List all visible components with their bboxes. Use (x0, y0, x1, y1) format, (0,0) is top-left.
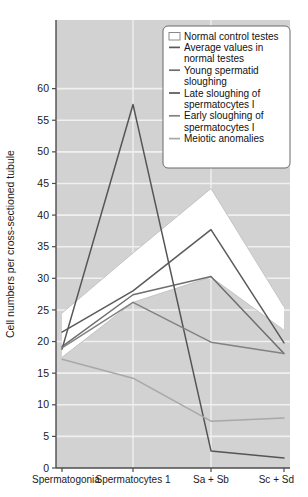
x-tick-label: Sa + Sb (193, 474, 229, 485)
x-tick-label: Spermatocytes 1 (95, 474, 170, 485)
legend-label: normal testes (184, 53, 244, 64)
y-tick-label: 0 (43, 462, 49, 474)
legend-swatch-box (169, 33, 180, 41)
legend-label: Young spermatid (184, 65, 259, 76)
y-tick-label: 5 (43, 430, 49, 442)
legend-label: Early sloughing of (184, 110, 264, 121)
y-tick-label: 10 (37, 398, 49, 410)
legend-label: Late sloughing of (184, 88, 260, 99)
y-tick-label: 25 (37, 304, 49, 316)
legend-label: sloughing (184, 76, 227, 87)
y-tick-label: 50 (37, 145, 49, 157)
legend-label: Normal control testes (184, 31, 278, 42)
y-tick-label: 40 (37, 209, 49, 221)
line-chart: 051015202530354045505560 SpermatogoniaSp… (0, 0, 308, 497)
legend-label: spermatocytes I (184, 122, 255, 133)
y-tick-label: 15 (37, 367, 49, 379)
legend-label: Meiotic anomalies (184, 133, 264, 144)
y-axis-title: Cell numbers per cross-sectioned tubule (4, 150, 16, 338)
y-tick-label: 20 (37, 335, 49, 347)
chart-legend: Normal control testesAverage values inno… (163, 26, 290, 168)
x-tick-label: Spermatogonia (32, 474, 100, 485)
y-tick-label: 60 (37, 82, 49, 94)
y-tick-label: 55 (37, 114, 49, 126)
y-axis-ticks: 051015202530354045505560 (37, 82, 56, 473)
chart-container: 051015202530354045505560 SpermatogoniaSp… (0, 0, 308, 497)
x-tick-label: Sc + Sd (259, 474, 294, 485)
legend-label: Average values in (184, 42, 263, 53)
y-tick-label: 30 (37, 272, 49, 284)
y-tick-label: 45 (37, 177, 49, 189)
y-tick-label: 35 (37, 240, 49, 252)
legend-label: spermatocytes I (184, 99, 255, 110)
x-axis-ticks: SpermatogoniaSpermatocytes 1Sa + SbSc + … (32, 468, 294, 485)
